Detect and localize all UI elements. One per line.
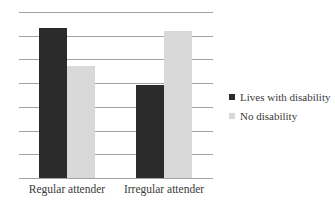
- bar: [136, 85, 164, 178]
- gridline: [19, 178, 213, 179]
- bar: [67, 66, 95, 178]
- legend: Lives with disabilityNo disability: [229, 87, 330, 125]
- bar-chart: Regular attenderIrregular attender Lives…: [0, 0, 335, 207]
- legend-item: No disability: [229, 106, 330, 125]
- legend-item: Lives with disability: [229, 87, 330, 106]
- legend-swatch-icon: [229, 113, 235, 119]
- gridline: [19, 12, 213, 13]
- bar: [164, 31, 192, 178]
- x-axis-label: Irregular attender: [124, 183, 204, 195]
- x-axis-label: Regular attender: [29, 183, 105, 195]
- legend-swatch-icon: [229, 94, 235, 100]
- bar: [39, 28, 67, 178]
- legend-label: Lives with disability: [240, 91, 330, 103]
- legend-label: No disability: [240, 110, 297, 122]
